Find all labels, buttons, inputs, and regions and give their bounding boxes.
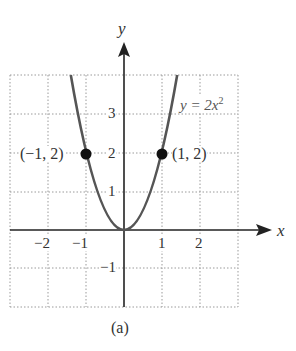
x-tick-1: 1 bbox=[158, 236, 166, 251]
equation-label: y = 2x2 bbox=[180, 96, 223, 113]
figure-caption: (a) bbox=[111, 320, 129, 336]
equation-exponent: 2 bbox=[218, 95, 223, 106]
y-axis-label: y bbox=[118, 20, 126, 37]
y-tick-2: 2 bbox=[108, 146, 116, 161]
point-left bbox=[81, 149, 92, 160]
point-left-label: (−1, 2) bbox=[20, 146, 64, 162]
x-tick-minus-2: −2 bbox=[34, 236, 50, 251]
y-tick-1: 1 bbox=[108, 184, 116, 199]
y-tick-minus-1: −1 bbox=[100, 260, 116, 275]
x-tick-2: 2 bbox=[195, 236, 203, 251]
x-axis-label: x bbox=[277, 222, 285, 239]
point-right-label: (1, 2) bbox=[172, 146, 207, 162]
chart-canvas bbox=[0, 0, 296, 351]
x-tick-minus-1: −1 bbox=[72, 236, 88, 251]
equation-text: y = 2x bbox=[180, 97, 218, 113]
y-tick-3: 3 bbox=[108, 106, 116, 121]
point-right bbox=[157, 149, 168, 160]
